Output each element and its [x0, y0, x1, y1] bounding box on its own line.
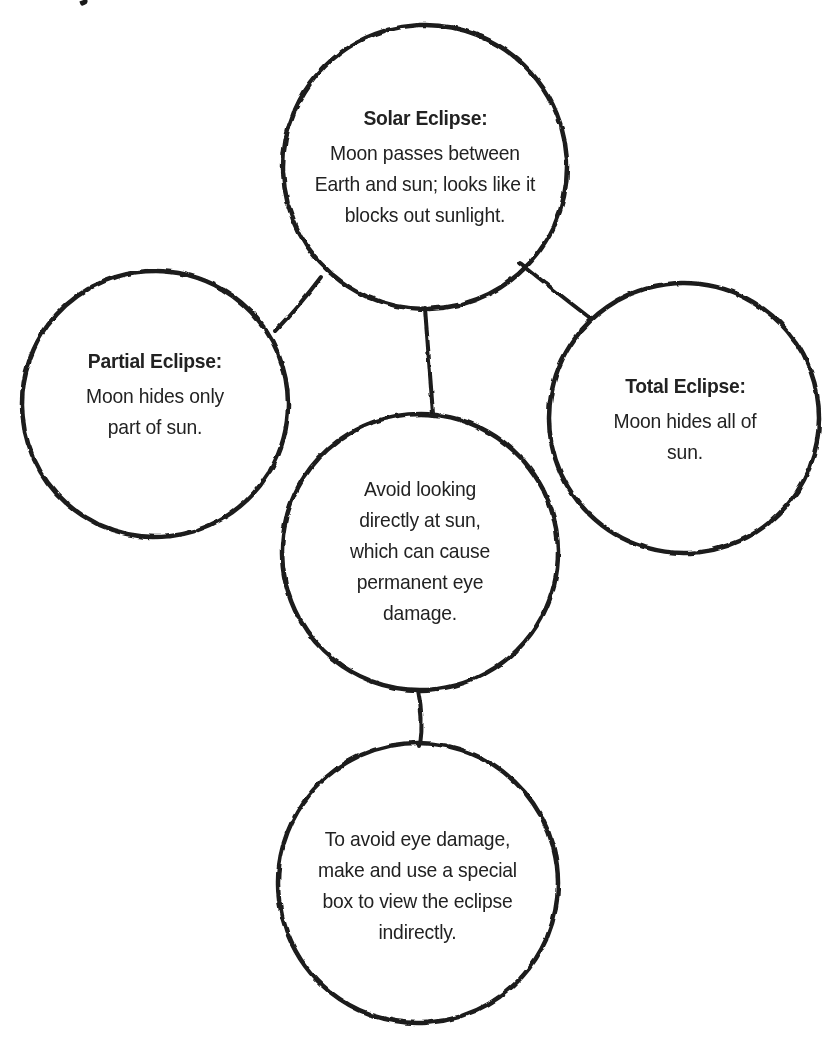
node-eye-damage-warning: Avoid looking directly at sun, which can…	[300, 460, 540, 640]
node-total-eclipse: Total Eclipse: Moon hides all of sun.	[570, 360, 800, 480]
node-partial-eclipse: Partial Eclipse: Moon hides only part of…	[40, 335, 270, 455]
connector-solar-partial	[276, 277, 321, 330]
node-title: Solar Eclipse:	[363, 105, 487, 131]
node-body: Avoid looking directly at sun, which can…	[333, 473, 508, 628]
node-body: Moon hides only part of sun.	[72, 380, 238, 442]
connector-solar-warning	[425, 308, 433, 414]
node-title: Total Eclipse:	[625, 373, 745, 399]
node-solar-eclipse: Solar Eclipse: Moon passes between Earth…	[300, 55, 550, 280]
node-safety-box: To avoid eye damage, make and use a spec…	[295, 795, 540, 975]
node-title: Partial Eclipse:	[88, 348, 222, 374]
node-body: Moon hides all of sun.	[607, 405, 763, 467]
node-body: To avoid eye damage, make and use a spec…	[314, 823, 521, 947]
connector-warning-safety	[418, 690, 422, 746]
node-body: Moon passes between Earth and sun; looks…	[315, 137, 536, 230]
